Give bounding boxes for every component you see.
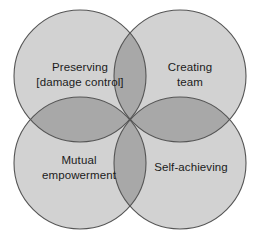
circle-label-mutual-empowerment: Mutual empowerment — [18, 153, 140, 183]
venn-circles-graphic — [0, 0, 260, 239]
circle-label-preserving: Preserving [damage control] — [20, 60, 140, 90]
venn-diagram: Preserving [damage control] Creating tea… — [0, 0, 260, 239]
circle-label-self-achieving: Self-achieving — [136, 160, 246, 175]
circle-label-creating-team: Creating team — [140, 60, 240, 90]
